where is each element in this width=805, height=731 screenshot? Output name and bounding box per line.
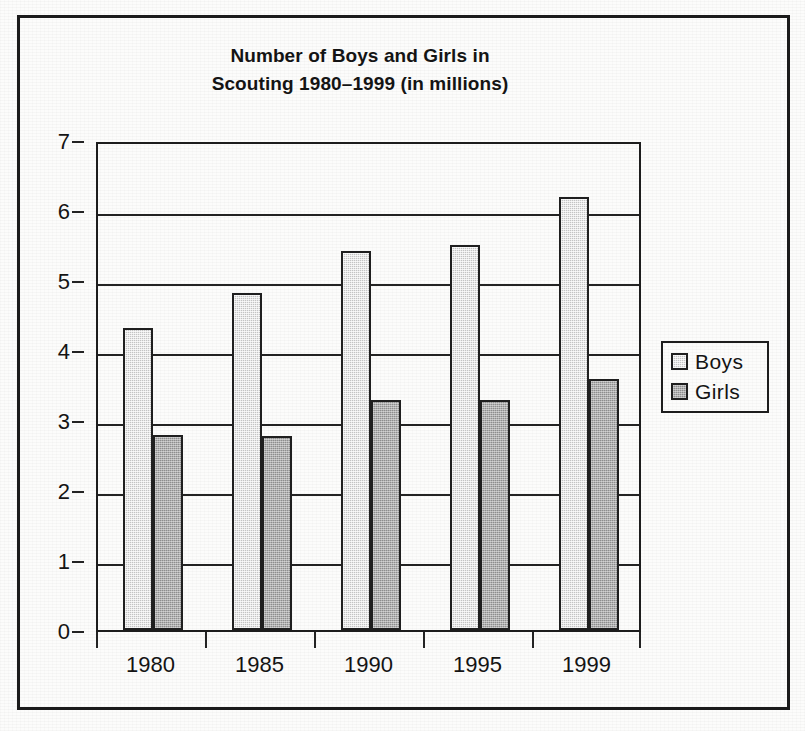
bar-girls-1995[interactable] <box>480 400 510 630</box>
x-axis: 19801985199019951999 <box>96 652 641 686</box>
y-tick-label: 7 <box>58 131 70 153</box>
bar-group <box>207 144 316 630</box>
x-tick-mark <box>639 632 641 648</box>
bar-boys-1995[interactable] <box>450 245 480 630</box>
bar-group <box>425 144 534 630</box>
bar-boys-1990[interactable] <box>341 251 371 630</box>
x-tick-mark <box>205 632 207 648</box>
y-tick-mark <box>72 351 84 353</box>
x-tick-label-1999: 1999 <box>562 652 611 677</box>
chart-title-line-1: Number of Boys and Girls in <box>60 42 660 70</box>
y-tick-label: 3 <box>58 411 70 433</box>
y-tick-label: 6 <box>58 201 70 223</box>
x-tick-label-1980: 1980 <box>126 652 175 677</box>
bar-boys-1999[interactable] <box>559 197 589 630</box>
legend-entry-girls[interactable]: Girls <box>671 381 758 402</box>
chart-title: Number of Boys and Girls in Scouting 198… <box>60 42 660 98</box>
bar-boys-1985[interactable] <box>232 293 262 630</box>
bars-layer <box>98 144 639 630</box>
legend: Boys Girls <box>661 341 769 413</box>
x-tick-label-1985: 1985 <box>235 652 284 677</box>
bar-girls-1980[interactable] <box>153 435 183 630</box>
x-tick-mark <box>96 632 98 648</box>
y-tick-mark <box>72 491 84 493</box>
y-tick-mark <box>72 631 84 633</box>
legend-label-boys: Boys <box>695 351 743 372</box>
legend-entry-boys[interactable]: Boys <box>671 351 758 372</box>
y-tick-label: 0 <box>58 621 70 643</box>
y-tick-label: 2 <box>58 481 70 503</box>
chart-title-line-2: Scouting 1980–1999 (in millions) <box>60 70 660 98</box>
y-tick-mark <box>72 561 84 563</box>
bar-boys-1980[interactable] <box>123 328 153 630</box>
x-tick-mark <box>532 632 534 648</box>
y-tick-mark <box>72 141 84 143</box>
legend-swatch-girls-icon <box>671 383 688 400</box>
bar-group <box>534 144 643 630</box>
x-tick-mark <box>423 632 425 648</box>
x-tick-mark <box>314 632 316 648</box>
legend-label-girls: Girls <box>695 381 740 402</box>
y-tick-label: 5 <box>58 271 70 293</box>
x-tick-label-1990: 1990 <box>344 652 393 677</box>
y-tick-label: 1 <box>58 551 70 573</box>
bar-group <box>316 144 425 630</box>
y-tick-mark <box>72 421 84 423</box>
plot-area <box>96 142 641 632</box>
bar-group <box>98 144 207 630</box>
y-tick-mark <box>72 281 84 283</box>
bar-girls-1990[interactable] <box>371 400 401 630</box>
bar-girls-1985[interactable] <box>262 436 292 630</box>
legend-swatch-boys-icon <box>671 353 688 370</box>
y-tick-label: 4 <box>58 341 70 363</box>
y-axis: 01234567 <box>40 142 84 632</box>
x-tick-label-1995: 1995 <box>453 652 502 677</box>
y-tick-mark <box>72 211 84 213</box>
bar-girls-1999[interactable] <box>589 379 619 630</box>
x-axis-ticks <box>96 632 641 650</box>
